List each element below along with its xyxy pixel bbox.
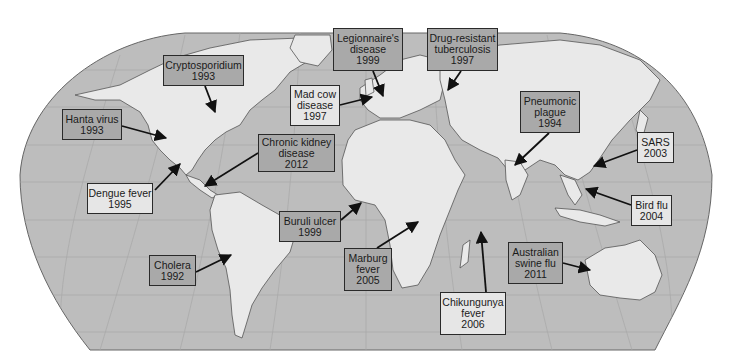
label-year: 1993: [80, 125, 103, 136]
label-australian-swine-flu: Australianswine flu2011: [508, 242, 563, 284]
label-year: 2006: [461, 319, 484, 330]
label-year: 2004: [640, 211, 663, 222]
label-text: Buruli ulcer: [284, 216, 337, 227]
label-year: 1993: [192, 71, 215, 82]
label-year: 2012: [285, 159, 308, 170]
label-text: Pneumonic: [524, 96, 577, 107]
label-year: 1992: [161, 271, 184, 282]
label-year: 1997: [451, 55, 474, 66]
label-text: disease: [278, 148, 314, 159]
label-text: Cryptosporidium: [165, 60, 241, 71]
label-year: 2011: [524, 269, 547, 280]
label-text: swine flu: [515, 258, 556, 269]
label-bird-flu: Bird flu2004: [631, 195, 672, 226]
label-pneumonic-plague: Pneumonicplague1994: [520, 91, 580, 133]
label-chronic-kidney-disease: Chronic kidneydisease2012: [258, 134, 335, 172]
label-mad-cow-disease: Mad cowdisease1997: [290, 85, 340, 126]
label-drug-resistant-tuberculosis: Drug-resistanttuberculosis1997: [427, 28, 498, 71]
label-year: 1994: [538, 118, 561, 129]
label-text: SARS: [641, 137, 670, 148]
label-year: 2005: [356, 275, 379, 286]
label-cryptosporidium: Cryptosporidium1993: [163, 55, 244, 86]
label-text: Bird flu: [635, 200, 668, 211]
label-hanta-virus: Hanta virus1993: [62, 109, 122, 140]
label-text: plague: [534, 107, 566, 118]
label-legionnaires-disease: Legionnaire'sdisease1999: [333, 28, 403, 71]
label-text: Chronic kidney: [262, 137, 331, 148]
label-chikungunya-fever: Chikungunyafever2006: [440, 292, 506, 335]
label-text: Hanta virus: [65, 114, 118, 125]
label-buruli-ulcer: Buruli ulcer1999: [279, 211, 341, 242]
label-year: 1995: [108, 199, 131, 210]
label-year: 1997: [303, 111, 326, 122]
label-year: 2003: [644, 148, 667, 159]
label-text: Dengue fever: [88, 188, 151, 199]
label-text: Cholera: [154, 260, 191, 271]
label-marburg-fever: Marburgfever2005: [344, 248, 392, 291]
label-dengue-fever: Dengue fever1995: [87, 183, 153, 214]
label-cholera: Cholera1992: [149, 255, 196, 286]
label-sars: SARS2003: [637, 132, 674, 163]
label-year: 1999: [298, 227, 321, 238]
label-text: Australian: [512, 247, 559, 258]
label-year: 1999: [356, 55, 379, 66]
